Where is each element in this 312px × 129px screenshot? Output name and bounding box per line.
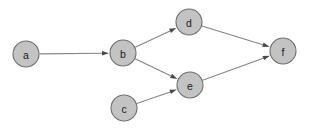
graph-canvas: abcdef <box>0 0 312 129</box>
graph-node-f[interactable]: f <box>270 38 296 64</box>
graph-node-e[interactable]: e <box>177 72 203 98</box>
node-label: b <box>120 48 126 60</box>
edge-line <box>137 92 170 104</box>
graph-node-c[interactable]: c <box>111 95 137 121</box>
edge-line <box>135 59 171 76</box>
graph-edge-c-to-e <box>137 90 177 104</box>
graph-edge-b-to-e <box>135 59 177 79</box>
edge-line <box>135 31 170 47</box>
edge-line <box>203 58 264 80</box>
arrowhead-icon <box>102 51 109 56</box>
edge-line <box>40 53 103 54</box>
graph-edge-d-to-f <box>202 26 270 47</box>
arrowhead-icon <box>262 43 269 47</box>
arrowhead-icon <box>169 90 176 94</box>
graph-diagram: abcdef <box>0 0 312 129</box>
arrowhead-icon <box>170 74 177 79</box>
graph-node-a[interactable]: a <box>13 41 39 67</box>
node-label: f <box>282 46 285 58</box>
graph-edge-e-to-f <box>203 56 270 81</box>
edge-line <box>202 26 263 45</box>
arrowhead-icon <box>262 56 269 61</box>
edges-layer <box>40 26 270 104</box>
node-label: c <box>121 103 126 115</box>
arrowhead-icon <box>169 28 176 33</box>
graph-edge-b-to-d <box>135 28 176 47</box>
nodes-layer: abcdef <box>13 9 296 121</box>
graph-node-b[interactable]: b <box>110 40 136 66</box>
node-label: e <box>187 80 193 92</box>
node-label: d <box>186 17 192 29</box>
graph-edge-a-to-b <box>40 51 110 56</box>
graph-node-d[interactable]: d <box>176 9 202 35</box>
node-label: a <box>23 49 29 61</box>
